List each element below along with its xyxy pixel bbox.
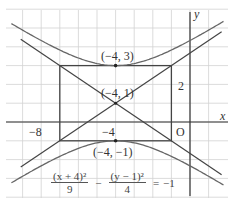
hyperbola-equation: (x + 4)² 9 − (y − 1)² 4 = −1 <box>48 170 175 196</box>
point-label-vertex-upper: (−4, 3) <box>101 50 134 62</box>
y-tick-label-2: 2 <box>178 80 184 92</box>
y-axis-label: y <box>194 8 199 20</box>
vertex-lower-point <box>114 139 118 143</box>
center-point <box>114 102 117 105</box>
equals-sign: = <box>153 177 159 189</box>
minus-sign: − <box>95 177 101 189</box>
vertex-upper-point <box>114 64 118 68</box>
term1-denominator: 9 <box>67 183 73 196</box>
equation-term2: (y − 1)² 4 <box>109 170 146 196</box>
equation-term1: (x + 4)² 9 <box>51 170 88 196</box>
x-tick-label-neg4: −4 <box>102 126 115 138</box>
x-tick-label-neg8: −8 <box>29 126 42 138</box>
term1-numerator: (x + 4)² <box>51 170 88 183</box>
point-label-center: (−4, 1) <box>101 87 134 99</box>
term2-denominator: 4 <box>124 183 130 196</box>
point-label-vertex-lower: (−4, −1) <box>93 146 133 158</box>
equation-rhs: −1 <box>163 177 175 189</box>
term2-numerator: (y − 1)² <box>109 170 146 183</box>
origin-label: O <box>176 126 185 138</box>
x-axis-label: x <box>220 110 225 122</box>
